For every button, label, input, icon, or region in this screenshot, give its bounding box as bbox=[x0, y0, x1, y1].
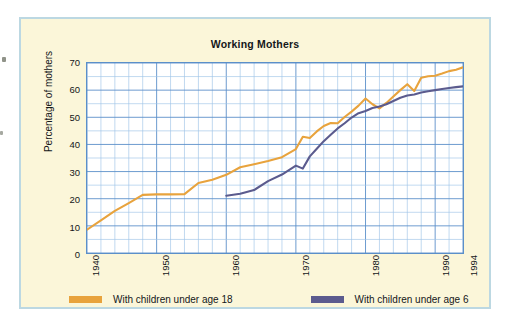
chart-title: Working Mothers bbox=[21, 38, 489, 50]
y-axis-tick-labels: 010203040506070 bbox=[54, 62, 80, 254]
screenshot-root: Working Mothers Percentage of mothers 01… bbox=[0, 0, 513, 331]
scan-artifact-mark bbox=[0, 131, 3, 135]
y-tick-label: 30 bbox=[58, 166, 80, 177]
y-tick-label: 0 bbox=[58, 249, 80, 260]
x-tick-label: 1980 bbox=[370, 255, 381, 276]
x-tick-label: 1940 bbox=[90, 255, 101, 276]
plot-area bbox=[86, 62, 464, 254]
chart-legend: With children under age 18 With children… bbox=[69, 291, 471, 307]
legend-swatch-blue bbox=[311, 296, 344, 303]
legend-swatch-orange bbox=[69, 296, 102, 303]
x-tick-label: 1950 bbox=[160, 255, 171, 276]
x-axis-tick-labels: 1940195019601970198019901994 bbox=[86, 255, 464, 291]
y-tick-label: 10 bbox=[58, 221, 80, 232]
y-tick-label: 60 bbox=[58, 84, 80, 95]
legend-label-under-18: With children under age 18 bbox=[113, 294, 233, 305]
x-tick-label: 1994 bbox=[468, 255, 479, 276]
chart-card: Working Mothers Percentage of mothers 01… bbox=[19, 17, 491, 309]
y-tick-label: 50 bbox=[58, 111, 80, 122]
chart-card-background: Working Mothers Percentage of mothers 01… bbox=[21, 19, 489, 307]
y-tick-label: 20 bbox=[58, 194, 80, 205]
legend-item-under-18: With children under age 18 bbox=[69, 294, 233, 305]
y-tick-label: 40 bbox=[58, 139, 80, 150]
legend-item-under-6: With children under age 6 bbox=[311, 294, 469, 305]
x-tick-label: 1970 bbox=[300, 255, 311, 276]
x-tick-label: 1990 bbox=[440, 255, 451, 276]
legend-label-under-6: With children under age 6 bbox=[355, 294, 469, 305]
x-tick-label: 1960 bbox=[230, 255, 241, 276]
y-tick-label: 70 bbox=[58, 57, 80, 68]
chart-canvas bbox=[87, 63, 463, 253]
y-axis-title: Percentage of mothers bbox=[43, 27, 54, 177]
scan-artifact-mark bbox=[2, 57, 6, 62]
